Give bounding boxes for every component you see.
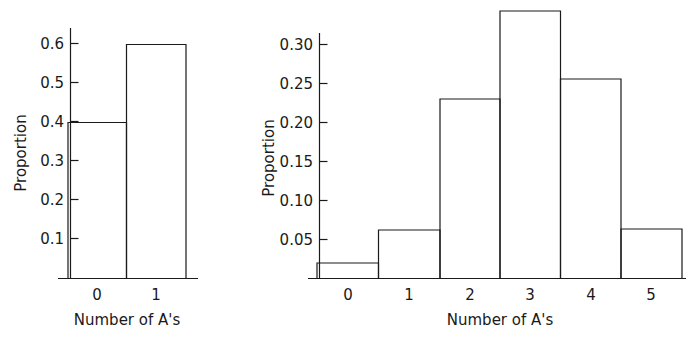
left-x-tick-label-0: 0 [92,286,102,304]
right-y-tick-label-3: 0.15 [280,153,313,171]
right-bar-3 [500,11,561,279]
left-y-tick-label-5: 0.5 [40,74,64,92]
right-bar-0 [317,263,379,279]
left-histogram-panel: 0.6 0.5 0.4 0.3 0.2 0.1 Proportion 0 1 N… [0,0,250,346]
right-y-tick-label-2: 0.10 [280,192,313,210]
right-y-tick-label-6: 0.30 [280,36,313,54]
left-x-axis-title: Number of A's [74,311,181,329]
right-x-tick-label-0: 0 [343,286,353,304]
right-y-tick-label-5: 0.25 [280,75,313,93]
right-y-tick-label-4: 0.20 [280,114,313,132]
left-bar-0 [68,123,127,279]
right-x-axis-title: Number of A's [447,311,554,329]
right-x-tick-label-5: 5 [646,286,656,304]
left-y-ticks [71,44,79,239]
figure-container: 0.6 0.5 0.4 0.3 0.2 0.1 Proportion 0 1 N… [0,0,689,346]
right-y-tick-label-1: 0.05 [280,231,313,249]
right-y-axis-title: Proportion [260,119,278,196]
left-y-tick-label-4: 0.4 [40,113,64,131]
right-histogram-svg: 0.30 0.25 0.20 0.15 0.10 0.05 Proportion… [250,0,689,346]
right-histogram-panel: 0.30 0.25 0.20 0.15 0.10 0.05 Proportion… [250,0,689,346]
right-x-tick-label-2: 2 [465,286,475,304]
left-x-tick-label-1: 1 [151,286,161,304]
left-y-axis-title: Proportion [12,114,30,191]
left-y-tick-label-3: 0.3 [40,152,64,170]
right-bar-5 [621,229,682,279]
left-histogram-svg: 0.6 0.5 0.4 0.3 0.2 0.1 Proportion 0 1 N… [0,0,250,346]
left-bar-1 [127,45,187,279]
left-y-tick-label-1: 0.1 [40,230,64,248]
right-x-tick-label-4: 4 [586,286,596,304]
right-y-ticks [320,45,328,240]
left-y-tick-label-6: 0.6 [40,35,64,53]
right-bar-2 [440,99,500,279]
left-y-tick-label-2: 0.2 [40,191,64,209]
right-bar-1 [379,230,441,279]
right-x-tick-label-3: 3 [525,286,535,304]
right-bar-4 [561,79,622,279]
right-x-tick-label-1: 1 [404,286,414,304]
